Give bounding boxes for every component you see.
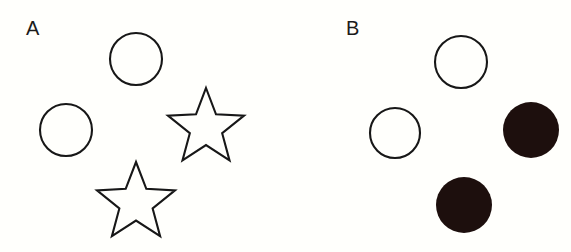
panel-a-circle-left	[40, 104, 92, 156]
panel-a-star-bottom	[97, 162, 175, 236]
panel-b-canvas	[285, 0, 571, 252]
panel-b-circle-left	[370, 108, 420, 158]
panel-b-shape-layer	[285, 0, 571, 252]
panel-b: B	[285, 0, 571, 252]
panel-a-circle-top	[110, 33, 162, 85]
figure-root: A B	[0, 0, 571, 252]
panel-a-star-right	[168, 88, 244, 160]
panel-a: A	[0, 0, 285, 252]
panel-a-shape-layer	[0, 0, 285, 252]
panel-b-disc-bottom	[436, 177, 492, 233]
panel-b-circle-top	[435, 36, 487, 88]
panel-a-canvas	[0, 0, 285, 252]
panel-b-disc-right	[503, 102, 559, 158]
